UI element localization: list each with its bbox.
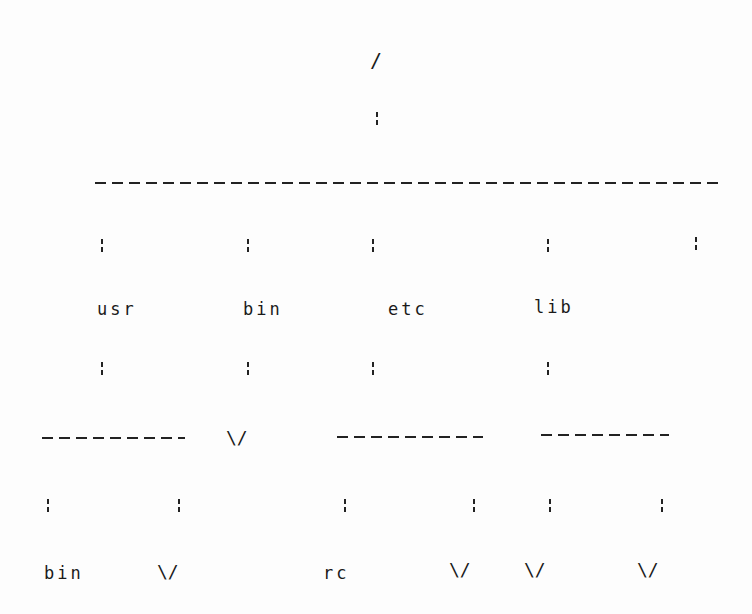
node-lib: lib xyxy=(534,297,574,317)
node-etc-rc: rc xyxy=(323,563,349,583)
root-connector xyxy=(376,112,378,125)
bin-empty-marker: \/ xyxy=(226,428,248,448)
extra-connector-top xyxy=(695,237,697,250)
lib-connector-top xyxy=(547,239,549,252)
node-bin: bin xyxy=(243,299,283,319)
usr-child2-connector xyxy=(178,499,180,512)
etc-child2-connector xyxy=(473,499,475,512)
lib-child1-connector xyxy=(549,499,551,512)
bin-connector-bottom xyxy=(247,362,249,375)
etc-child1-connector xyxy=(344,499,346,512)
etc-empty-marker: \/ xyxy=(449,560,471,580)
lib-empty-marker-2: \/ xyxy=(637,560,659,580)
node-usr: usr xyxy=(97,299,137,319)
usr-child1-connector xyxy=(47,499,49,512)
usr-connector-top xyxy=(101,239,103,252)
usr-connector-bottom xyxy=(101,362,103,375)
node-usr-bin: bin xyxy=(44,563,84,583)
node-etc: etc xyxy=(388,299,428,319)
usr-branch-line xyxy=(42,437,185,439)
level1-branch-line xyxy=(95,182,721,184)
etc-branch-line xyxy=(337,436,483,438)
etc-connector-top xyxy=(372,239,374,252)
lib-child2-connector xyxy=(661,499,663,512)
etc-connector-bottom xyxy=(372,362,374,375)
lib-connector-bottom xyxy=(547,362,549,375)
root-node: / xyxy=(370,50,382,70)
usr-empty-marker: \/ xyxy=(157,562,179,582)
bin-connector-top xyxy=(247,239,249,252)
lib-empty-marker-1: \/ xyxy=(524,560,546,580)
lib-branch-line xyxy=(541,434,669,436)
